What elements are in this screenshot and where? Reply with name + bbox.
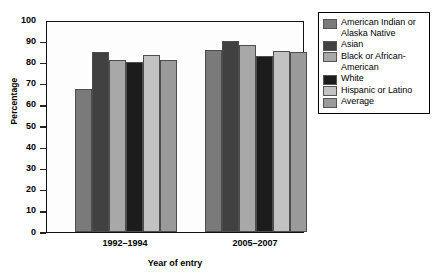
bar[interactable] <box>273 51 290 232</box>
y-axis-tick-label: 90 <box>26 36 36 46</box>
y-axis-tick-label: 40 <box>26 142 36 152</box>
legend-item-label: Average <box>341 96 374 107</box>
bar-chart: Percentage 0102030405060708090100 1992–1… <box>0 0 434 275</box>
legend-item[interactable]: Hispanic or Latino <box>323 85 426 97</box>
legend-item-label: Black or African-American <box>341 51 426 73</box>
bar[interactable] <box>92 52 109 232</box>
y-axis-title: Percentage <box>9 61 19 141</box>
legend-swatch-icon <box>323 86 337 96</box>
y-axis-tick-label: 100 <box>21 15 36 25</box>
legend-item-label: Hispanic or Latino <box>341 85 412 96</box>
x-axis-tick-label: 1992–1994 <box>75 238 175 248</box>
legend-item[interactable]: White <box>323 73 426 85</box>
bar-group <box>205 22 307 232</box>
bars-container <box>47 22 303 232</box>
y-axis-tick-label: 80 <box>26 57 36 67</box>
bar[interactable] <box>109 60 126 232</box>
bar[interactable] <box>239 45 256 232</box>
legend-swatch-icon <box>323 98 337 108</box>
y-axis-tick-label: 30 <box>26 163 36 173</box>
legend-swatch-icon <box>323 19 337 29</box>
legend-item[interactable]: Average <box>323 96 426 108</box>
bar[interactable] <box>205 50 222 232</box>
bar[interactable] <box>256 56 273 232</box>
bar-group <box>75 22 177 232</box>
bar[interactable] <box>75 89 92 232</box>
y-axis-tick-label: 60 <box>26 99 36 109</box>
bar[interactable] <box>222 41 239 232</box>
y-axis-tick-label: 10 <box>26 205 36 215</box>
legend: American Indian or Alaska NativeAsianBla… <box>318 12 430 114</box>
legend-item[interactable]: Asian <box>323 39 426 51</box>
bar[interactable] <box>290 52 307 232</box>
legend-item-label: White <box>341 73 364 84</box>
legend-item[interactable]: American Indian or Alaska Native <box>323 17 426 39</box>
bar[interactable] <box>143 55 160 232</box>
x-axis-tick-label: 2005–2007 <box>205 238 305 248</box>
legend-item-label: Asian <box>341 39 363 50</box>
legend-swatch-icon <box>323 41 337 51</box>
legend-swatch-icon <box>323 75 337 85</box>
x-axis-title: Year of entry <box>46 258 304 268</box>
y-axis-tick-label: 0 <box>31 227 36 237</box>
bar[interactable] <box>126 62 143 232</box>
y-axis-tick-label: 50 <box>26 121 36 131</box>
y-axis-tick-label: 70 <box>26 78 36 88</box>
legend-item-label: American Indian or Alaska Native <box>341 17 426 39</box>
plot-area <box>46 21 304 233</box>
legend-item[interactable]: Black or African-American <box>323 51 426 73</box>
y-axis-tick-label: 20 <box>26 184 36 194</box>
bar[interactable] <box>160 60 177 232</box>
legend-swatch-icon <box>323 52 337 62</box>
